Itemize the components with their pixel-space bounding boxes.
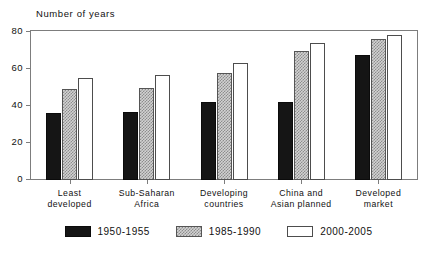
- legend-swatch: [65, 226, 91, 237]
- y-axis-tick: 40: [0, 105, 30, 106]
- y-axis-tick-label: 40: [11, 99, 23, 110]
- x-axis-tick-mark: [378, 180, 379, 184]
- y-axis-tick: 20: [0, 142, 30, 143]
- legend-item[interactable]: 1985-1990: [176, 226, 261, 237]
- y-axis-tick-mark: [26, 142, 30, 143]
- legend-label: 1950-1955: [98, 226, 150, 237]
- bar[interactable]: [155, 75, 170, 180]
- y-axis-tick-label: 0: [17, 173, 23, 184]
- y-axis-tick-mark: [26, 31, 30, 32]
- bar[interactable]: [139, 88, 154, 181]
- bar-group: [201, 31, 248, 180]
- x-axis-tick-mark: [224, 180, 225, 184]
- y-axis-tick: 0: [0, 179, 30, 180]
- bar[interactable]: [278, 102, 293, 180]
- x-axis-category-label-line: Developed: [328, 188, 428, 199]
- legend-item[interactable]: 2000-2005: [287, 226, 372, 237]
- y-axis-title: Number of years: [36, 8, 115, 19]
- y-axis-tick-mark: [26, 68, 30, 69]
- bar[interactable]: [294, 51, 309, 180]
- y-axis-tick: 80: [0, 31, 30, 32]
- legend-label: 2000-2005: [320, 226, 372, 237]
- bar-chart: Number of years 020406080 Leastdeveloped…: [0, 0, 437, 261]
- bar[interactable]: [387, 35, 402, 180]
- y-axis-tick-label: 20: [11, 136, 23, 147]
- bar[interactable]: [371, 39, 386, 180]
- bar[interactable]: [217, 73, 232, 180]
- y-axis-tick-mark: [26, 179, 30, 180]
- x-axis-category-label: Developedmarket: [328, 188, 428, 210]
- legend-swatch: [176, 226, 202, 237]
- bar-group: [123, 31, 170, 180]
- bar-group: [278, 31, 325, 180]
- bar[interactable]: [233, 63, 248, 180]
- legend-item[interactable]: 1950-1955: [65, 226, 150, 237]
- y-axis-tick: 60: [0, 68, 30, 69]
- bar[interactable]: [355, 55, 370, 180]
- bar[interactable]: [46, 113, 61, 180]
- x-axis-tick-mark: [301, 180, 302, 184]
- x-axis-tick-mark: [147, 180, 148, 184]
- bar-group: [355, 31, 402, 180]
- legend-label: 1985-1990: [209, 226, 261, 237]
- bar[interactable]: [310, 43, 325, 180]
- bar[interactable]: [62, 89, 77, 180]
- y-axis-tick-label: 60: [11, 62, 23, 73]
- bar[interactable]: [78, 78, 93, 180]
- bar[interactable]: [201, 102, 216, 180]
- bar[interactable]: [123, 112, 138, 180]
- legend-swatch: [287, 226, 313, 237]
- x-axis-tick-mark: [70, 180, 71, 184]
- y-axis-tick-mark: [26, 105, 30, 106]
- x-axis-category-label-line: market: [328, 199, 428, 210]
- bars-layer: [31, 31, 417, 180]
- bar-group: [46, 31, 93, 180]
- y-axis-tick-label: 80: [11, 25, 23, 36]
- chart-legend: 1950-19551985-19902000-2005: [0, 226, 437, 237]
